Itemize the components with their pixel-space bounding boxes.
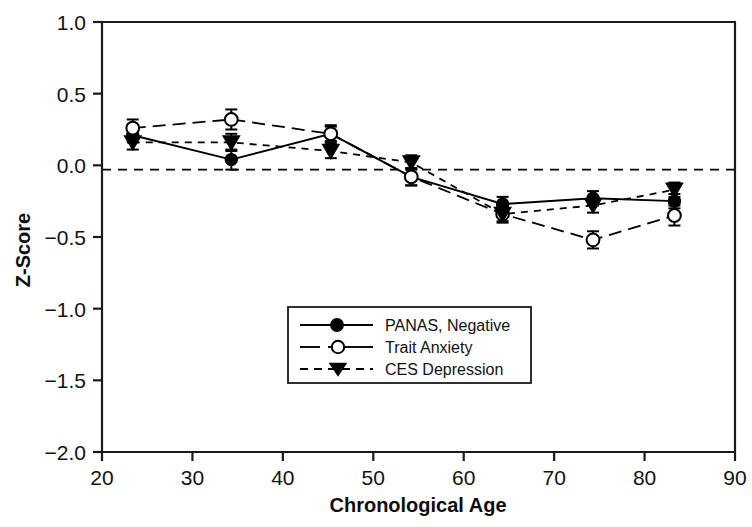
marker-filled-circle (225, 154, 237, 166)
chart-background (0, 0, 752, 527)
y-tick-label: −2.0 (45, 441, 86, 464)
y-tick-label: −1.5 (45, 369, 86, 392)
legend-label-panas-negative: PANAS, Negative (385, 317, 510, 334)
marker-open-circle (225, 113, 238, 126)
legend-label-ces-depression: CES Depression (385, 361, 503, 378)
x-tick-label: 20 (90, 466, 113, 489)
legend-marker-filled-circle (331, 319, 343, 331)
y-tick-label: 0.0 (57, 154, 86, 177)
marker-open-circle (324, 127, 337, 140)
legend-label-trait-anxiety: Trait Anxiety (385, 339, 472, 356)
x-tick-label: 80 (633, 466, 656, 489)
x-tick-label: 60 (452, 466, 475, 489)
marker-open-circle (126, 122, 139, 135)
y-tick-label: −0.5 (45, 226, 86, 249)
y-tick-label: 0.5 (57, 83, 86, 106)
figure-container: Z-Score Chronological Age PANAS, Negativ… (0, 0, 752, 527)
marker-open-circle (668, 209, 681, 222)
y-tick-label: 1.0 (57, 11, 86, 34)
legend-marker-open-circle (332, 341, 344, 353)
z-score-line-chart: Z-Score Chronological Age PANAS, Negativ… (0, 0, 752, 527)
marker-open-circle (405, 170, 418, 183)
y-axis-title: Z-Score (12, 213, 34, 287)
y-tick-label: −1.0 (45, 298, 86, 321)
x-axis-title: Chronological Age (329, 494, 506, 516)
x-tick-label: 30 (181, 466, 204, 489)
x-tick-label: 90 (723, 466, 746, 489)
x-tick-label: 50 (362, 466, 385, 489)
x-tick-label: 70 (542, 466, 565, 489)
x-tick-label: 40 (271, 466, 294, 489)
marker-open-circle (587, 233, 600, 246)
chart-legend: PANAS, Negative Trait Anxiety CES Depres… (288, 307, 531, 383)
